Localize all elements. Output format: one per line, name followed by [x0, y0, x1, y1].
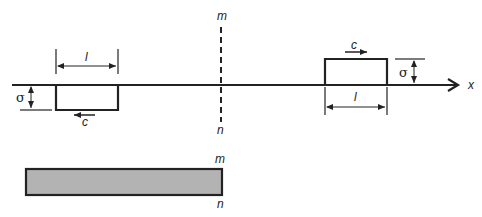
- right-pulse: [325, 59, 387, 85]
- left-amplitude-label: σ: [16, 90, 25, 105]
- right-velocity-label: c: [351, 38, 357, 52]
- bar-label-n: n: [217, 197, 224, 211]
- x-axis-label: x: [467, 78, 475, 92]
- section-label-m: m: [217, 9, 227, 23]
- x-axis: [12, 79, 458, 91]
- section-label-n: n: [217, 123, 224, 137]
- bar-label-m: m: [215, 152, 225, 166]
- left-length-label: l: [85, 50, 88, 64]
- left-velocity-label: c: [82, 115, 88, 129]
- wave-diagram: x m n l σ c c σ l m n: [0, 0, 482, 217]
- right-amplitude-label: σ: [399, 65, 408, 80]
- right-length-label: l: [354, 90, 357, 104]
- left-pulse: [56, 85, 118, 110]
- elastic-bar: [26, 169, 222, 195]
